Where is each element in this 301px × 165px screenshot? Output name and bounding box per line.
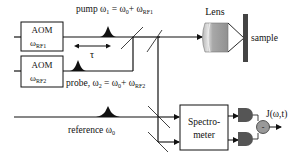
lens-label: Lens xyxy=(205,6,225,17)
probe-pulse-icon xyxy=(70,60,86,71)
output-label: J(ω,t) xyxy=(266,109,287,120)
probe-label: probe, ω2 = ω0+ ωRF2 xyxy=(66,78,145,89)
detector-1-icon xyxy=(238,108,253,122)
beam-splitter-2 xyxy=(147,30,162,52)
delay-indicator: τ xyxy=(79,46,106,60)
detector-2-icon xyxy=(238,132,253,146)
spectrometer-label-line1: Spectro- xyxy=(188,117,220,127)
aom2-title: AOM xyxy=(31,60,52,70)
reference-pulse-icon xyxy=(96,106,120,117)
spectrometer-box: Spectro- meter xyxy=(180,105,228,150)
probe-beam xyxy=(63,37,133,71)
spectrometer-label-line2: meter xyxy=(193,130,215,140)
beam-splitter-1 xyxy=(121,27,143,49)
sample: sample xyxy=(243,14,278,62)
subtractor: - xyxy=(257,121,270,134)
pump-pulse-icon xyxy=(100,26,116,37)
reference-label: reference ω0 xyxy=(68,125,115,136)
aom2-box: AOM ωRF2 xyxy=(14,56,63,87)
aom1-box: AOM ωRF1 xyxy=(14,22,63,51)
aom1-title: AOM xyxy=(31,25,52,35)
subtract-symbol: - xyxy=(262,123,265,132)
delay-label: τ xyxy=(90,49,94,60)
optical-setup-diagram: AOM ωRF1 AOM ωRF2 τ Lens xyxy=(0,0,301,165)
reference-beam: reference ω0 xyxy=(14,106,158,136)
pump-label: pump ω1 = ω0+ ωRF1 xyxy=(76,4,153,15)
pump-beam xyxy=(63,26,160,37)
sample-label: sample xyxy=(251,33,278,43)
lens: Lens xyxy=(203,6,229,52)
